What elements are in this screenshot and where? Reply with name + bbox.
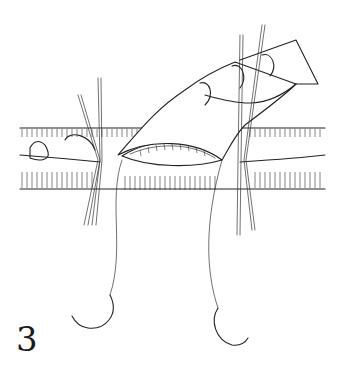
anastomosis-illustration (0, 0, 345, 373)
panel-number-label: 3 (16, 322, 38, 356)
curved-needle-right (209, 160, 248, 345)
stay-sutures-left (78, 78, 102, 225)
gloved-finger (118, 40, 318, 160)
